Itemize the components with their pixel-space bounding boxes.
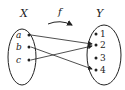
svg-text:1: 1 [100, 29, 106, 39]
dot-icon [95, 57, 98, 60]
domain-element-c: c [16, 55, 31, 65]
function-mapping-diagram: X Y f a b c 1 2 3 4 [0, 0, 125, 90]
codomain-element-1: 1 [95, 29, 106, 39]
svg-text:a: a [16, 30, 21, 40]
svg-text:4: 4 [100, 65, 106, 75]
svg-text:b: b [16, 42, 22, 52]
dot-icon [95, 44, 98, 47]
codomain-element-4: 4 [95, 65, 107, 75]
dot-icon [95, 33, 98, 36]
mapping-arrow-a-to-2 [31, 35, 92, 44]
dot-icon [28, 46, 31, 49]
dot-icon [28, 34, 31, 37]
svg-text:c: c [16, 55, 21, 65]
codomain-element-2: 2 [95, 40, 106, 50]
dot-icon [28, 59, 31, 62]
function-arrow-icon [48, 22, 72, 25]
svg-text:3: 3 [100, 53, 106, 63]
dot-icon [95, 69, 98, 72]
function-label: f [57, 6, 64, 17]
domain-set-ellipse [8, 29, 36, 85]
codomain-label: Y [96, 7, 105, 20]
domain-label: X [19, 7, 29, 20]
domain-element-b: b [16, 42, 31, 52]
codomain-element-3: 3 [95, 53, 107, 63]
svg-text:2: 2 [100, 40, 106, 50]
